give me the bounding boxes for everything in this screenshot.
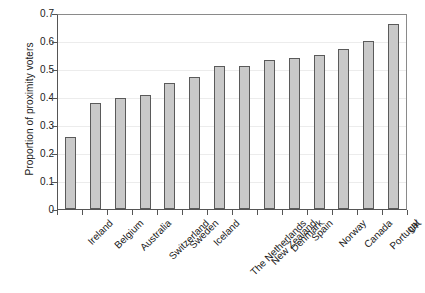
plot-area: [57, 14, 407, 210]
bar: [264, 60, 275, 209]
x-tick-mark: [357, 210, 358, 215]
bar-slot: [282, 15, 307, 209]
x-tick-mark: [332, 210, 333, 215]
x-axis-category-labels: IrelandBelgiumAustraliaSwitzerlandSweden…: [57, 216, 407, 291]
y-tick-label: 0.6: [26, 37, 54, 47]
bar: [189, 77, 200, 209]
bar-chart-figure: Proportion of proximity voters 00.10.20.…: [0, 0, 425, 293]
y-axis-tick-labels: 00.10.20.30.40.50.60.7: [26, 14, 54, 210]
bar: [214, 66, 225, 209]
x-tick-mark: [82, 210, 83, 215]
bar-slot: [232, 15, 257, 209]
bar-slot: [307, 15, 332, 209]
bar: [140, 95, 151, 209]
bar: [338, 49, 349, 209]
bar-slot: [182, 15, 207, 209]
y-tick-label: 0.4: [26, 93, 54, 103]
bar-slot: [381, 15, 406, 209]
y-tick-label: 0.5: [26, 65, 54, 75]
x-tick-mark: [307, 210, 308, 215]
bar: [90, 103, 101, 209]
bar: [164, 83, 175, 209]
x-tick-mark: [57, 210, 58, 215]
bar-series: [58, 15, 406, 209]
x-tick-mark: [157, 210, 158, 215]
bar-slot: [331, 15, 356, 209]
bar-slot: [157, 15, 182, 209]
bar: [363, 41, 374, 209]
x-tick-mark: [182, 210, 183, 215]
x-tick-mark: [207, 210, 208, 215]
y-tick-label: 0: [26, 205, 54, 215]
bar-slot: [356, 15, 381, 209]
y-tick-label: 0.3: [26, 121, 54, 131]
x-tick-mark: [132, 210, 133, 215]
y-tick-label: 0.2: [26, 149, 54, 159]
bar: [388, 24, 399, 209]
bar-slot: [83, 15, 108, 209]
bar: [115, 98, 126, 209]
bar: [289, 58, 300, 209]
x-tick-mark: [382, 210, 383, 215]
bar-slot: [257, 15, 282, 209]
y-tick-label: 0.1: [26, 177, 54, 187]
x-tick-mark: [232, 210, 233, 215]
bar-slot: [58, 15, 83, 209]
x-tick-mark: [257, 210, 258, 215]
x-tick-mark: [282, 210, 283, 215]
y-tick-label: 0.7: [26, 9, 54, 19]
x-axis-tick-marks: [57, 210, 407, 215]
bar-slot: [108, 15, 133, 209]
bar-slot: [207, 15, 232, 209]
x-tick-mark: [407, 210, 408, 215]
x-tick-mark: [107, 210, 108, 215]
bar-slot: [133, 15, 158, 209]
bar: [65, 137, 76, 209]
bar: [239, 66, 250, 209]
bar: [314, 55, 325, 209]
